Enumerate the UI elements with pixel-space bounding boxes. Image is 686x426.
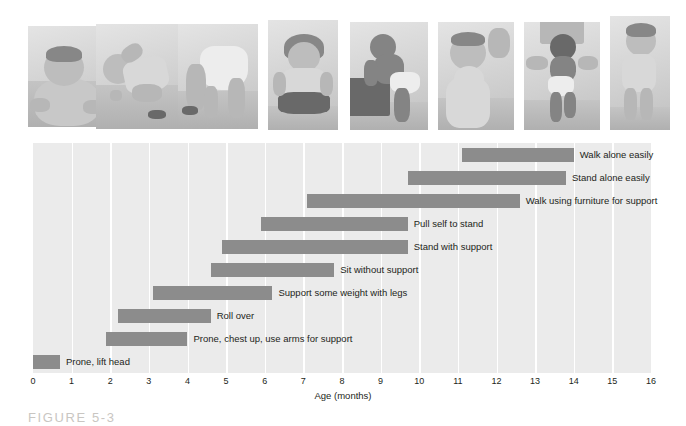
photo-infant-sitting-unsupported bbox=[268, 20, 338, 130]
milestone-row: Stand alone easily bbox=[33, 166, 651, 189]
x-tick-label: 13 bbox=[530, 376, 540, 386]
baby-arm bbox=[228, 78, 245, 118]
photo-infant-rolling-over bbox=[96, 24, 180, 129]
milestone-row: Stand with support bbox=[33, 235, 651, 258]
plot-area: Walk alone easilyStand alone easilyWalk … bbox=[33, 143, 651, 373]
milestone-row: Sit without support bbox=[33, 258, 651, 281]
x-tick-label: 12 bbox=[491, 376, 501, 386]
milestone-bar bbox=[307, 194, 519, 208]
baby-leg bbox=[132, 84, 162, 102]
milestone-bar bbox=[222, 240, 407, 254]
photo-infant-standing-support bbox=[438, 22, 514, 130]
x-tick-label: 10 bbox=[414, 376, 424, 386]
milestone-label: Prone, chest up, use arms for support bbox=[194, 331, 353, 346]
adult-hand bbox=[488, 28, 510, 58]
x-tick-label: 15 bbox=[607, 376, 617, 386]
milestone-bar bbox=[211, 263, 335, 277]
infant-photo-strip bbox=[0, 0, 686, 140]
milestone-bar bbox=[153, 286, 273, 300]
milestone-label: Sit without support bbox=[340, 262, 418, 277]
baby-arm bbox=[273, 72, 286, 96]
baby-pants bbox=[278, 92, 330, 114]
baby-arm bbox=[204, 86, 218, 118]
adult-hand bbox=[578, 56, 598, 70]
milestone-bar bbox=[261, 217, 408, 231]
milestone-bar bbox=[408, 171, 566, 185]
milestone-row: Support some weight with legs bbox=[33, 281, 651, 304]
milestone-label: Roll over bbox=[217, 308, 255, 323]
milestone-row: Roll over bbox=[33, 304, 651, 327]
baby-clothing bbox=[622, 54, 656, 92]
x-tick-label: 9 bbox=[378, 376, 383, 386]
milestone-row: Walk using furniture for support bbox=[33, 189, 651, 212]
x-tick-label: 11 bbox=[453, 376, 462, 386]
baby-leg bbox=[550, 92, 562, 122]
baby-leg bbox=[624, 88, 637, 120]
baby-leg bbox=[186, 64, 206, 110]
baby-foot bbox=[182, 106, 198, 115]
baby-foot bbox=[148, 110, 166, 119]
milestone-label: Walk alone easily bbox=[580, 147, 654, 162]
milestone-label: Prone, lift head bbox=[66, 354, 130, 369]
milestone-bar bbox=[33, 355, 60, 369]
baby-leg bbox=[640, 88, 653, 120]
x-tick-label: 0 bbox=[30, 376, 35, 386]
x-tick-label: 3 bbox=[146, 376, 151, 386]
gridline bbox=[651, 143, 653, 373]
baby-leg bbox=[394, 88, 410, 122]
milestone-bar bbox=[118, 309, 211, 323]
x-axis-label: Age (months) bbox=[0, 390, 686, 401]
motor-development-chart: Degree of motor development Walk alone e… bbox=[0, 140, 686, 402]
milestone-bar bbox=[462, 148, 574, 162]
baby-arm bbox=[364, 60, 378, 86]
milestone-bar bbox=[106, 332, 187, 346]
x-axis-ticks: 012345678910111213141516 bbox=[33, 376, 651, 390]
x-tick-label: 14 bbox=[569, 376, 579, 386]
x-tick-label: 5 bbox=[224, 376, 229, 386]
milestone-row: Pull self to stand bbox=[33, 212, 651, 235]
baby-hair bbox=[46, 46, 82, 62]
photo-infant-pulling-to-stand bbox=[350, 22, 428, 130]
figure-caption: FIGURE 5-3 bbox=[28, 410, 116, 425]
x-tick-label: 8 bbox=[339, 376, 344, 386]
x-tick-label: 4 bbox=[185, 376, 190, 386]
baby-hair bbox=[626, 23, 656, 37]
x-tick-label: 2 bbox=[108, 376, 113, 386]
milestone-label: Pull self to stand bbox=[414, 216, 484, 231]
milestone-label: Stand with support bbox=[414, 239, 493, 254]
milestone-row: Walk alone easily bbox=[33, 143, 651, 166]
milestone-label: Walk using furniture for support bbox=[526, 193, 658, 208]
baby-arm bbox=[30, 98, 50, 112]
adult-hand bbox=[526, 56, 548, 70]
baby-hair bbox=[451, 32, 485, 46]
baby-hand bbox=[110, 90, 122, 101]
photo-infant-crawling bbox=[178, 24, 258, 129]
photo-toddler-walking-alone bbox=[610, 16, 670, 130]
x-tick-label: 1 bbox=[69, 376, 74, 386]
milestone-label: Support some weight with legs bbox=[278, 285, 407, 300]
milestone-row: Prone, chest up, use arms for support bbox=[33, 327, 651, 350]
photo-infant-walking-assisted bbox=[524, 22, 600, 130]
baby-clothing bbox=[446, 78, 490, 128]
baby-leg bbox=[564, 92, 576, 118]
baby-arm bbox=[320, 72, 333, 96]
milestone-label: Stand alone easily bbox=[572, 170, 650, 185]
x-tick-label: 7 bbox=[301, 376, 306, 386]
x-tick-label: 16 bbox=[646, 376, 656, 386]
photo-floor bbox=[524, 100, 600, 130]
milestone-row: Prone, lift head bbox=[33, 350, 651, 373]
x-tick-label: 6 bbox=[262, 376, 267, 386]
